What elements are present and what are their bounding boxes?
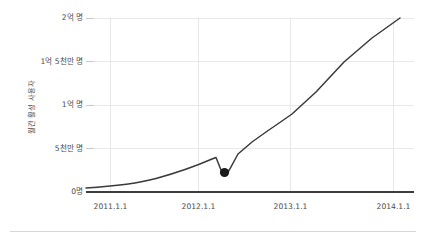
x-tick-label-2012: 2012.1.1	[182, 202, 216, 211]
line-chart: 2억 명 1억 5천만 명 1억 명 5천만 명 0명 2011.1.1 201…	[0, 0, 426, 241]
y-tick-label-100m: 1억 명	[62, 99, 83, 109]
x-tick-label-2011: 2011.1.1	[94, 202, 128, 211]
x-axis-tick-labels: 2011.1.1 2012.1.1 2013.1.1 2014.1.1	[94, 202, 411, 211]
y-axis-title: 월간 활성 사용자	[27, 80, 36, 134]
y-tick-label-0: 0명	[71, 186, 83, 196]
series-line-mau	[86, 18, 400, 188]
chart-container: 2억 명 1억 5천만 명 1억 명 5천만 명 0명 2011.1.1 201…	[0, 0, 426, 241]
horizontal-gridlines	[94, 18, 414, 149]
y-tick-label-150m: 1억 5천만 명	[41, 56, 84, 66]
x-tick-label-2014: 2014.1.1	[377, 202, 411, 211]
y-tick-marks	[86, 18, 94, 149]
y-tick-label-50m: 5천만 명	[55, 143, 83, 153]
x-tick-label-2013: 2013.1.1	[274, 202, 308, 211]
y-axis-tick-labels: 2억 명 1억 5천만 명 1억 명 5천만 명 0명	[41, 12, 84, 196]
y-tick-label-200m: 2억 명	[62, 12, 83, 22]
highlighted-data-point[interactable]	[220, 168, 229, 177]
